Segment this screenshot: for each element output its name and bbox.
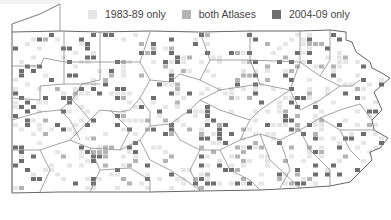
- legend-swatch-light: [88, 10, 97, 19]
- map-legend: 1983-89 only both Atlases 2004-09 only: [88, 8, 366, 20]
- legend-label: 2004-09 only: [289, 8, 350, 20]
- legend-label: both Atlases: [199, 8, 256, 20]
- legend-swatch-dark: [272, 10, 281, 19]
- pennsylvania-map: [0, 0, 391, 220]
- atlas-blocks: [13, 33, 384, 190]
- legend-swatch-medium: [182, 10, 191, 19]
- legend-label: 1983-89 only: [105, 8, 166, 20]
- legend-item-2004-09: 2004-09 only: [272, 8, 350, 20]
- legend-item-1983-89: 1983-89 only: [88, 8, 166, 20]
- legend-item-both: both Atlases: [182, 8, 256, 20]
